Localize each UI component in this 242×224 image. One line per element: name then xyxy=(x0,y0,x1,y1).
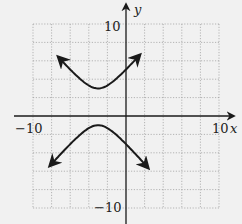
x-min-tick-label: −10 xyxy=(15,121,42,136)
x-axis-label: x xyxy=(230,121,238,136)
y-axis-label: y xyxy=(133,2,142,17)
lower-branch-curve xyxy=(50,125,149,168)
y-min-tick-label: −10 xyxy=(94,200,121,215)
y-max-tick-label: 10 xyxy=(104,19,121,34)
hyperbola-graph: y 10 −10 10 x −10 xyxy=(0,0,242,224)
x-max-tick-label: 10 xyxy=(212,121,229,136)
